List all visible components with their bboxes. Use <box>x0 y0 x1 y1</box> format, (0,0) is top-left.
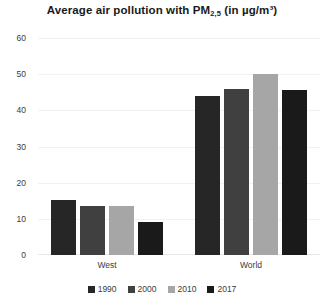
chart-title-subscript: 2,5 <box>210 9 221 18</box>
legend-item-2010[interactable]: 2010 <box>168 285 197 294</box>
y-axis-label-40: 40 <box>0 106 26 115</box>
legend-item-2017[interactable]: 2017 <box>207 285 236 294</box>
legend-swatch-2010 <box>168 286 175 293</box>
chart-title: Average air pollution with PM2,5 (in µg/… <box>0 4 324 16</box>
legend-swatch-2017 <box>207 286 214 293</box>
bar-chart: Average air pollution with PM2,5 (in µg/… <box>0 0 324 307</box>
chart-title-units: (in µg/m³) <box>221 4 277 16</box>
legend-label-2000: 2000 <box>138 285 157 294</box>
legend-item-1990[interactable]: 1990 <box>88 285 117 294</box>
y-axis-label-60: 60 <box>0 34 26 43</box>
bar-west-1990[interactable] <box>51 200 76 255</box>
bar-world-2010[interactable] <box>253 74 278 255</box>
bar-world-1990[interactable] <box>195 96 220 255</box>
x-axis-label-world: World <box>190 260 312 270</box>
bar-west-2010[interactable] <box>109 206 134 255</box>
x-axis-label-west: West <box>46 260 168 270</box>
bar-west-2017[interactable] <box>138 222 163 255</box>
legend-label-2017: 2017 <box>217 285 236 294</box>
y-axis-label-20: 20 <box>0 178 26 187</box>
bar-world-2000[interactable] <box>224 89 249 255</box>
chart-legend: 1990200020102017 <box>0 285 324 294</box>
bar-world-2017[interactable] <box>282 90 307 255</box>
bar-west-2000[interactable] <box>80 206 105 255</box>
y-axis-label-0: 0 <box>0 251 26 260</box>
plot-area: 0102030405060 <box>38 38 320 255</box>
legend-swatch-1990 <box>88 286 95 293</box>
bar-group-world <box>190 38 312 255</box>
y-axis-label-10: 10 <box>0 215 26 224</box>
bar-group-west <box>46 38 168 255</box>
y-axis-label-50: 50 <box>0 70 26 79</box>
legend-swatch-2000 <box>128 286 135 293</box>
chart-title-main: Average air pollution with PM <box>47 4 211 16</box>
legend-label-2010: 2010 <box>178 285 197 294</box>
legend-label-1990: 1990 <box>98 285 117 294</box>
y-axis-label-30: 30 <box>0 142 26 151</box>
legend-item-2000[interactable]: 2000 <box>128 285 157 294</box>
